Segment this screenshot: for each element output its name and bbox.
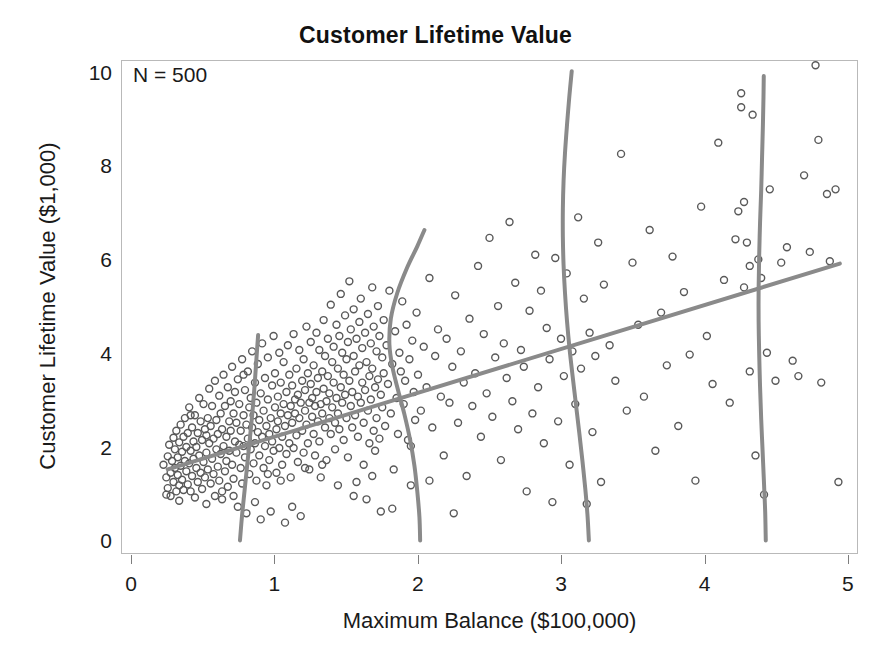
scatter-point [738, 104, 745, 111]
scatter-point [592, 353, 599, 360]
scatter-point [362, 387, 369, 394]
scatter-point [336, 426, 343, 433]
x-axis-title: Maximum Balance ($100,000) [121, 608, 858, 634]
scatter-point [377, 508, 384, 515]
scatter-point [333, 321, 340, 328]
scatter-point [220, 371, 227, 378]
scatter-point [342, 312, 349, 319]
scatter-point [312, 452, 319, 459]
scatter-point [818, 379, 825, 386]
scatter-point [219, 488, 226, 495]
scatter-point [360, 461, 367, 468]
scatter-point [475, 262, 482, 269]
scatter-point [334, 482, 341, 489]
y-tick-label: 6 [52, 248, 112, 272]
scatter-point [356, 318, 363, 325]
scatter-point [362, 329, 369, 336]
scatter-point [623, 407, 630, 414]
scatter-point [339, 349, 346, 356]
scatter-point [369, 284, 376, 291]
scatter-point [191, 494, 198, 501]
scatter-point [546, 356, 553, 363]
scatter-point [324, 335, 331, 342]
scatter-point [658, 309, 665, 316]
scatter-point [289, 503, 296, 510]
scatter-point [322, 424, 329, 431]
scatter-point [204, 415, 211, 422]
scatter-point [266, 457, 273, 464]
scatter-point [480, 331, 487, 338]
scatter-point [354, 433, 361, 440]
y-tick-label: 2 [52, 436, 112, 460]
scatter-point [823, 191, 830, 198]
scatter-point [286, 371, 293, 378]
scatter-point [347, 402, 354, 409]
scatter-point [752, 452, 759, 459]
scatter-point [283, 451, 290, 458]
scatter-point [703, 332, 710, 339]
scatter-point [207, 480, 214, 487]
scatter-point [273, 426, 280, 433]
scatter-point [216, 477, 223, 484]
scatter-plot-svg [122, 61, 857, 553]
scatter-point [367, 396, 374, 403]
scatter-point [735, 208, 742, 215]
scatter-point [316, 438, 323, 445]
scatter-point [269, 382, 276, 389]
x-tick-mark [848, 555, 849, 564]
scatter-point [455, 419, 462, 426]
scatter-point [302, 465, 309, 472]
scatter-point [330, 343, 337, 350]
scatter-point [377, 391, 384, 398]
scatter-point [353, 479, 360, 486]
scatter-point [324, 373, 331, 380]
scatter-point [370, 323, 377, 330]
scatter-point [523, 488, 530, 495]
scatter-point [209, 402, 216, 409]
scatter-point [469, 402, 476, 409]
scatter-point [629, 259, 636, 266]
scatter-point [229, 363, 236, 370]
scatter-point [262, 374, 269, 381]
scatter-point [282, 423, 289, 430]
scatter-point [356, 362, 363, 369]
scatter-point [257, 390, 264, 397]
scatter-point [413, 309, 420, 316]
scatter-point [240, 412, 247, 419]
scatter-point [353, 335, 360, 342]
scatter-point [294, 458, 301, 465]
scatter-point [304, 440, 311, 447]
scatter-point [317, 474, 324, 481]
scatter-point [343, 356, 350, 363]
scatter-point [435, 326, 442, 333]
scatter-point [313, 388, 320, 395]
scatter-point [450, 510, 457, 517]
x-tick-label: 4 [675, 572, 735, 596]
chart-title: Customer Lifetime Value [0, 22, 871, 49]
scatter-point [299, 377, 306, 384]
scatter-point [211, 377, 218, 384]
x-tick-label: 5 [818, 572, 871, 596]
scatter-point [549, 499, 556, 506]
scatter-point [486, 234, 493, 241]
scatter-point [264, 471, 271, 478]
quantile-curve-4 [759, 76, 766, 540]
scatter-point [600, 281, 607, 288]
scatter-point [440, 452, 447, 459]
scatter-point [489, 413, 496, 420]
scatter-point [273, 469, 280, 476]
scatter-point [302, 407, 309, 414]
scatter-point [789, 357, 796, 364]
scatter-point [417, 407, 424, 414]
scatter-point [272, 404, 279, 411]
y-tick-label: 4 [52, 342, 112, 366]
scatter-point [540, 440, 547, 447]
scatter-point [297, 513, 304, 520]
scatter-point [374, 303, 381, 310]
scatter-point [357, 399, 364, 406]
scatter-point [364, 311, 371, 318]
scatter-point [264, 354, 271, 361]
scatter-point [284, 342, 291, 349]
scatter-point [384, 381, 391, 388]
scatter-point [226, 418, 233, 425]
